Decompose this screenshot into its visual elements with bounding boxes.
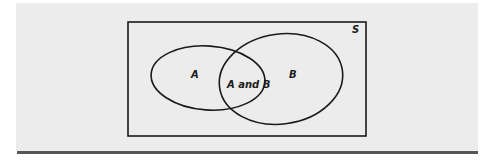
set-a-label: A (190, 69, 199, 80)
set-a-ellipse (149, 42, 267, 114)
universe-label: S (352, 24, 359, 35)
bottom-rule (17, 151, 478, 154)
venn-diagram: S A A and B B (0, 0, 500, 161)
set-b-label: B (289, 69, 297, 80)
intersection-label: A and B (226, 79, 270, 90)
